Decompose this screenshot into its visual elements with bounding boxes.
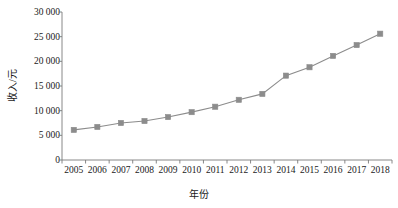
plot-area (0, 0, 398, 208)
data-point-marker (283, 73, 288, 78)
data-point-marker (378, 31, 383, 36)
data-point-marker (118, 120, 123, 125)
x-axis-title-label: 年份 (0, 186, 398, 201)
data-point-marker (330, 53, 335, 58)
x-axis-tick-label: 2018 (371, 165, 390, 175)
x-axis-tick-label: 2006 (88, 165, 107, 175)
x-axis-tick-label: 2005 (64, 165, 83, 175)
x-axis-tick-label: 2008 (135, 165, 154, 175)
x-axis-tick-label: 2010 (182, 165, 201, 175)
x-axis-tick-label: 2017 (347, 165, 366, 175)
x-axis-tick-label: 2011 (206, 165, 225, 175)
series-line-income (74, 34, 380, 130)
data-point-marker (142, 118, 147, 123)
x-axis-tick-label: 2013 (253, 165, 272, 175)
data-point-marker (354, 42, 359, 47)
x-axis-tick-label: 2014 (276, 165, 295, 175)
data-point-marker (307, 65, 312, 70)
data-point-marker (213, 104, 218, 109)
x-axis-tick-label: 2012 (229, 165, 248, 175)
income-by-year-line-chart: 收入/元 05 00010 00015 00020 00025 00030 00… (0, 0, 398, 208)
x-axis-tick-label: 2015 (300, 165, 319, 175)
x-axis-tick-label: 2016 (324, 165, 343, 175)
data-point-marker (71, 127, 76, 132)
x-axis-tick-label: 2009 (159, 165, 178, 175)
x-axis-tick-label: 2007 (111, 165, 130, 175)
data-point-marker (260, 91, 265, 96)
data-point-marker (236, 97, 241, 102)
data-point-marker (165, 114, 170, 119)
data-point-marker (95, 124, 100, 129)
data-point-marker (189, 110, 194, 115)
